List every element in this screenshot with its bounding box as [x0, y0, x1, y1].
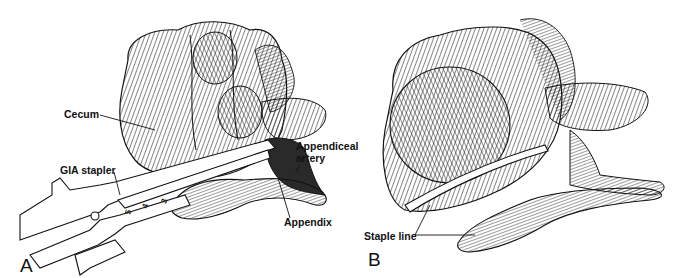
illustration: 5 4 3: [0, 0, 680, 278]
label-cecum: Cecum: [64, 109, 99, 120]
label-staple-line: Staple line: [364, 231, 417, 242]
label-appendiceal-artery-2: artery: [296, 153, 325, 164]
panel-a-drawing: 5 4 3: [20, 22, 326, 275]
label-appendiceal-artery-1: Appendiceal: [296, 141, 358, 152]
panel-letter-a: A: [20, 255, 33, 277]
panel-b-drawing: [383, 19, 664, 252]
label-appendix: Appendix: [284, 217, 332, 228]
panel-letter-b: B: [368, 249, 381, 271]
label-gia-stapler: GIA stapler: [60, 165, 116, 176]
